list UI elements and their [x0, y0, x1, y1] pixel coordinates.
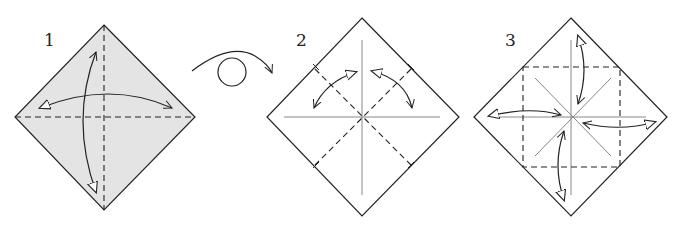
step-number-3: 3: [505, 30, 516, 50]
origami-diagram: 1 2 3: [0, 0, 676, 232]
turn-over-icon: [192, 51, 272, 86]
step-number-2: 2: [296, 30, 307, 50]
step-2: 2: [267, 18, 459, 216]
step-1: 1: [15, 25, 195, 210]
step-3: 3: [474, 18, 667, 216]
step-number-1: 1: [44, 30, 55, 50]
